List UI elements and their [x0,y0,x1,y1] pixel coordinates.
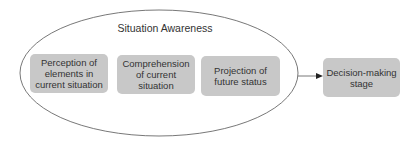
group-title: Situation Awareness [110,22,220,34]
node-comprehension: Comprehension of current situation [117,55,195,94]
node-label: Decision-making stage [326,67,397,89]
arrowhead-icon [316,73,323,79]
node-label: Comprehension of current situation [120,58,192,91]
node-perception: Perception of elements in current situat… [30,54,108,93]
node-label: Perception of elements in current situat… [33,57,105,90]
node-decision-making: Decision-making stage [323,58,400,97]
node-label: Projection of future status [204,65,277,87]
node-projection: Projection of future status [201,56,280,96]
